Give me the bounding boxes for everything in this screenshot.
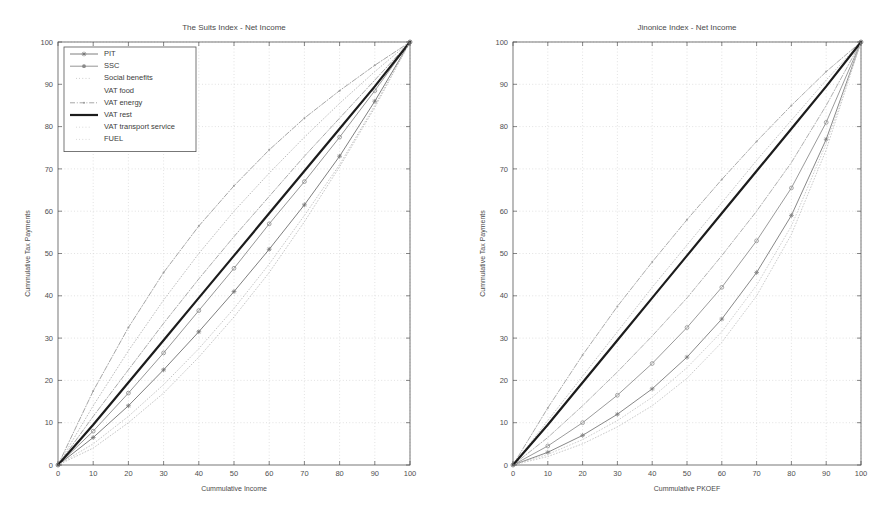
x-tick-label: 40 — [648, 469, 656, 478]
y-tick-label: 0 — [504, 461, 508, 470]
chart-panel-right: Jinonice Index - Net Income0102030405060… — [443, 0, 887, 523]
data-point — [161, 367, 166, 372]
data-point — [789, 213, 794, 218]
x-tick-label: 70 — [300, 469, 308, 478]
data-point — [267, 247, 272, 252]
x-tick-label: 80 — [787, 469, 795, 478]
legend-label: VAT transport service — [104, 122, 175, 131]
grid-lines — [513, 42, 861, 465]
x-tick-label: 0 — [511, 469, 515, 478]
y-tick-label: 20 — [45, 376, 53, 385]
y-axis-label: Cummulative Tax Payments — [24, 210, 32, 297]
y-tick-label: 10 — [500, 418, 508, 427]
y-tick-label: 70 — [500, 165, 508, 174]
x-tick-label: 80 — [335, 469, 343, 478]
data-point — [92, 390, 94, 392]
x-tick-label: 30 — [159, 469, 167, 478]
data-point — [825, 71, 827, 73]
x-tick-label: 90 — [371, 469, 379, 478]
y-tick-label: 40 — [500, 291, 508, 300]
x-axis-ticks: 0102030405060708090100 — [511, 42, 867, 478]
legend-label: VAT food — [104, 86, 134, 95]
y-tick-label: 0 — [49, 461, 53, 470]
x-tick-label: 0 — [56, 469, 60, 478]
legend-label: VAT rest — [104, 110, 133, 119]
chart-panel-left: The Suits Index - Net Income010203040506… — [0, 0, 443, 523]
legend-label: FUEL — [104, 134, 123, 143]
legend-item[interactable]: VAT food — [104, 86, 134, 95]
data-point — [372, 99, 377, 104]
data-point — [268, 149, 270, 151]
legend-label: SSC — [104, 61, 120, 70]
x-tick-label: 20 — [124, 469, 132, 478]
y-tick-label: 30 — [500, 334, 508, 343]
data-point — [686, 219, 688, 221]
y-tick-label: 80 — [500, 122, 508, 131]
y-tick-label: 50 — [45, 249, 53, 258]
x-tick-label: 100 — [404, 469, 417, 478]
legend-label: Social benefits — [104, 73, 153, 82]
data-point — [756, 140, 758, 142]
y-tick-label: 10 — [45, 418, 53, 427]
data-point — [374, 64, 376, 66]
x-tick-label: 60 — [718, 469, 726, 478]
x-tick-label: 20 — [578, 469, 586, 478]
data-point — [651, 261, 653, 263]
data-point — [616, 305, 618, 307]
data-point — [685, 355, 690, 360]
y-tick-label: 100 — [40, 38, 53, 47]
data-point — [196, 329, 201, 334]
data-point — [163, 272, 165, 274]
legend-marker-dot — [83, 102, 85, 104]
data-point — [126, 403, 131, 408]
x-tick-label: 90 — [822, 469, 830, 478]
x-tick-label: 10 — [544, 469, 552, 478]
data-point — [127, 327, 129, 329]
data-point — [91, 435, 96, 440]
data-point — [790, 104, 792, 106]
data-point — [232, 289, 237, 294]
legend-marker-circle — [82, 64, 86, 68]
jinonice-index-plot: Jinonice Index - Net Income0102030405060… — [443, 0, 887, 523]
data-point — [303, 117, 305, 119]
legend-label: PIT — [104, 49, 116, 58]
y-tick-label: 50 — [500, 249, 508, 258]
x-tick-label: 50 — [683, 469, 691, 478]
data-point — [582, 354, 584, 356]
figure-canvas: The Suits Index - Net Income010203040506… — [0, 0, 887, 523]
data-point — [547, 407, 549, 409]
y-tick-label: 60 — [45, 207, 53, 216]
chart-title: Jinonice Index - Net Income — [637, 23, 737, 32]
y-tick-label: 90 — [45, 80, 53, 89]
y-tick-label: 30 — [45, 334, 53, 343]
data-point — [233, 185, 235, 187]
x-axis-label: Cummulative PKOEF — [654, 485, 721, 492]
suits-index-plot: The Suits Index - Net Income010203040506… — [0, 0, 443, 523]
legend: PITSSCSocial benefitsVAT foodVAT energyV… — [64, 47, 196, 152]
chart-title: The Suits Index - Net Income — [182, 23, 286, 32]
data-point — [337, 154, 342, 159]
y-tick-label: 60 — [500, 207, 508, 216]
y-tick-label: 80 — [45, 122, 53, 131]
y-tick-label: 20 — [500, 376, 508, 385]
x-tick-label: 50 — [230, 469, 238, 478]
x-tick-label: 70 — [752, 469, 760, 478]
x-tick-label: 10 — [89, 469, 97, 478]
x-tick-label: 30 — [613, 469, 621, 478]
y-tick-label: 90 — [500, 80, 508, 89]
data-point — [339, 90, 341, 92]
x-tick-label: 100 — [855, 469, 868, 478]
legend-label: VAT energy — [104, 98, 143, 107]
y-tick-label: 100 — [495, 38, 508, 47]
data-point — [198, 225, 200, 227]
x-tick-label: 40 — [195, 469, 203, 478]
x-tick-label: 60 — [265, 469, 273, 478]
y-tick-label: 40 — [45, 291, 53, 300]
legend-marker-star — [82, 52, 87, 57]
data-point — [302, 202, 307, 207]
data-point — [580, 433, 585, 438]
data-point — [721, 178, 723, 180]
y-tick-label: 70 — [45, 165, 53, 174]
y-axis-label: Cummulative Tax Payments — [479, 210, 487, 297]
x-axis-label: Cummulative Income — [201, 485, 267, 492]
